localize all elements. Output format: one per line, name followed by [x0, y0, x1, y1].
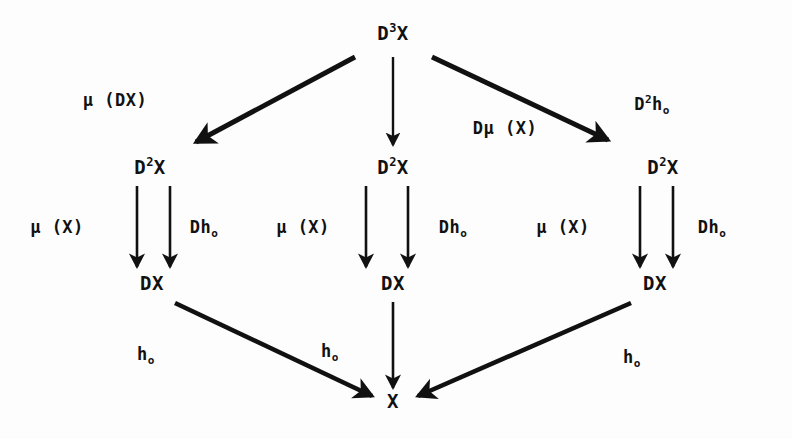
label-h0-mid-left: ho	[321, 343, 339, 360]
label-dh0-right: Dho	[698, 219, 727, 236]
label-mu-x-center: μ (X)	[276, 219, 330, 236]
diagram-arrows-layer	[0, 0, 792, 439]
node-low-left-dx: DX	[140, 274, 164, 293]
arrow-top-to-mid-left	[196, 57, 355, 142]
node-top-d3x: D3X	[377, 24, 409, 43]
node-mid-center-d2x: D2X	[377, 158, 409, 177]
label-mu-x-left: μ (X)	[30, 219, 84, 236]
label-dh0-left: Dho	[190, 219, 219, 236]
label-dh0-center: Dho	[439, 219, 468, 236]
label-h0-right: ho	[623, 349, 641, 366]
label-h0-far-left: ho	[137, 346, 155, 363]
node-low-center-dx: DX	[381, 274, 405, 293]
label-d2-h0: D2ho	[634, 96, 670, 113]
label-d-mu-x: Dμ (X)	[473, 120, 537, 137]
node-mid-left-d2x: D2X	[134, 158, 166, 177]
node-low-right-dx: DX	[643, 274, 667, 293]
arrow-low-right-to-bottom	[418, 303, 631, 396]
commutative-diagram: D3X D2X D2X D2X DX DX DX X μ (DX) Dμ (X)…	[0, 0, 792, 439]
label-mu-x-right: μ (X)	[536, 219, 590, 236]
arrow-low-left-to-bottom	[175, 303, 372, 396]
node-mid-right-d2x: D2X	[647, 158, 679, 177]
label-mu-dx: μ (DX)	[83, 92, 147, 109]
node-bottom-x: X	[387, 392, 399, 411]
